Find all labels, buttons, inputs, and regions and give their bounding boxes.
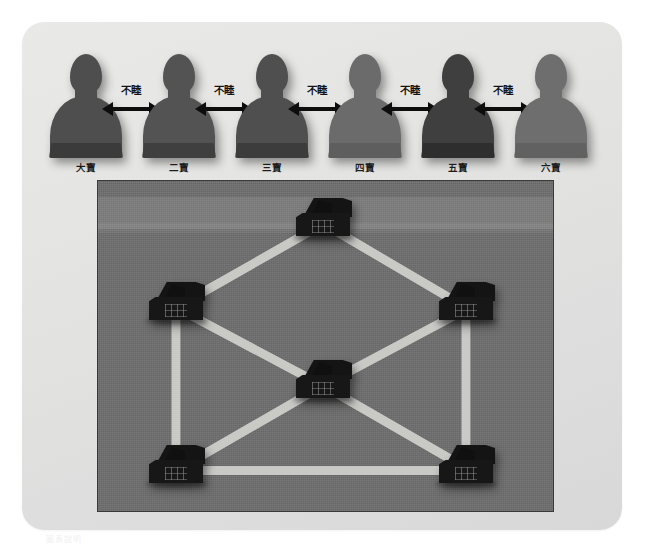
house-window-icon <box>455 467 477 480</box>
house-window-icon <box>455 304 477 317</box>
graph-node-house[interactable] <box>435 282 497 324</box>
graph-node-house[interactable] <box>292 360 354 402</box>
house-window-icon <box>312 220 334 233</box>
person-silhouette-icon <box>515 54 587 158</box>
person-label: 五寶 <box>418 160 498 174</box>
house-window-icon <box>165 304 187 317</box>
house-window-icon <box>165 467 187 480</box>
graph-node-house[interactable] <box>435 445 497 487</box>
person-6[interactable]: 六寶 <box>511 54 591 174</box>
person-label: 大寶 <box>46 160 126 174</box>
graph-panel <box>97 180 554 512</box>
person-label: 四寶 <box>325 160 405 174</box>
person-label: 二寶 <box>139 160 219 174</box>
person-label: 三寶 <box>232 160 312 174</box>
graph-node-house[interactable] <box>145 282 207 324</box>
graph-node-house[interactable] <box>292 198 354 240</box>
person-label: 六寶 <box>511 160 591 174</box>
figure-caption: 圖表說明 <box>46 533 346 544</box>
graph-node-house[interactable] <box>145 445 207 487</box>
diagram-card: 大寶 不睦 二寶 不睦 <box>22 22 622 530</box>
graph-edge <box>176 466 466 475</box>
house-window-icon <box>312 382 334 395</box>
people-row: 大寶 不睦 二寶 不睦 <box>22 44 622 196</box>
